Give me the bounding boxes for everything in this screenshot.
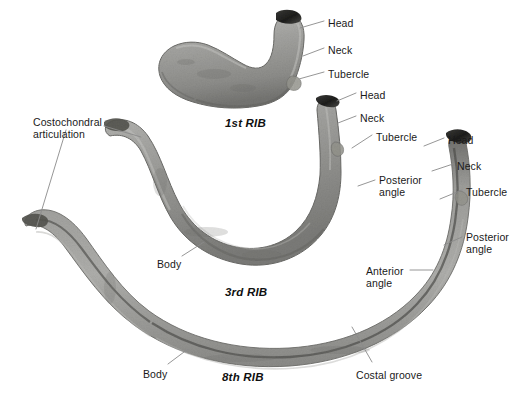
leader-rib8-body [168, 349, 188, 364]
leader-rib3-head [337, 93, 356, 101]
label-rib1-head: Head [328, 17, 354, 29]
label-rib8-posterior: Posterior angle [466, 231, 509, 255]
leader-rib3-posterior [358, 180, 375, 186]
label-rib3-posterior: Posterior angle [379, 174, 422, 198]
label-rib8-head: Head [448, 134, 474, 146]
label-rib8-costalgroove: Costal groove [356, 369, 422, 381]
bone-rib-3 [104, 95, 344, 265]
label-rib8-tubercle: Tubercle [466, 186, 507, 198]
leader-rib1-tubercle [299, 72, 324, 79]
label-rib8-body: Body [143, 368, 167, 380]
leader-rib8-head [424, 138, 444, 146]
label-rib3-neck: Neck [360, 112, 384, 124]
bone-artwork-layer [0, 0, 519, 403]
bone-rib-1 [159, 10, 304, 108]
title-rib3: 3rd RIB [225, 286, 267, 298]
leader-rib8-neck [432, 164, 453, 171]
label-rib1-neck: Neck [328, 44, 352, 56]
leader-rib1-neck [303, 48, 324, 56]
label-rib8-anterior: Anterior angle [366, 265, 404, 289]
leader-rib3-tubercle [352, 135, 372, 148]
label-rib3-head: Head [360, 89, 386, 101]
label-rib1-tubercle: Tubercle [328, 68, 369, 80]
ribs-figure: HeadNeckTubercleHeadNeckTuberclePosterio… [0, 0, 519, 403]
title-rib1: 1st RIB [225, 117, 266, 129]
label-costochondral: Costochondral articulation [33, 116, 102, 140]
label-rib8-neck: Neck [457, 160, 481, 172]
label-rib3-tubercle: Tubercle [376, 131, 417, 143]
leader-rib3-neck [338, 116, 356, 123]
rib1-head-facet [276, 10, 301, 24]
label-rib3-body: Body [157, 258, 181, 270]
title-rib8: 8th RIB [222, 371, 264, 383]
leader-rib1-head [300, 21, 324, 28]
